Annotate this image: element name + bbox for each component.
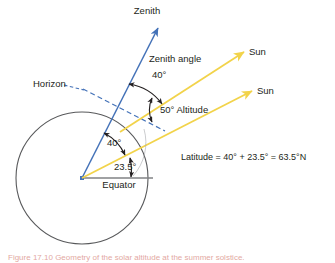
figure-caption: Figure 17.10 Geometry of the solar altit… bbox=[8, 253, 328, 263]
solar-altitude-diagram: Zenith Zenith angle 40° Sun Sun 50° Alti… bbox=[0, 0, 335, 263]
label-sun-lower: Sun bbox=[257, 85, 274, 96]
label-horizon: Horizon bbox=[33, 78, 66, 89]
label-angle-235-center: 23.5° bbox=[114, 161, 136, 172]
label-sun-upper: Sun bbox=[249, 46, 266, 57]
label-equator: Equator bbox=[102, 179, 135, 190]
label-angle-40-center: 40° bbox=[107, 137, 122, 148]
horizon-leader bbox=[64, 85, 84, 90]
label-zenith: Zenith bbox=[134, 5, 160, 16]
label-altitude: 50° Altitude bbox=[160, 104, 208, 115]
sun-ray-upper bbox=[120, 52, 244, 132]
zenith-line bbox=[82, 28, 158, 178]
zenith-angle-arc bbox=[129, 84, 162, 104]
label-zenith-angle-value: 40° bbox=[152, 69, 167, 80]
altitude-arc bbox=[149, 98, 152, 122]
label-zenith-angle: Zenith angle bbox=[149, 53, 201, 64]
label-latitude-equation: Latitude = 40° + 23.5° = 63.5°N bbox=[181, 152, 306, 162]
figure-container: Zenith Zenith angle 40° Sun Sun 50° Alti… bbox=[0, 0, 335, 263]
